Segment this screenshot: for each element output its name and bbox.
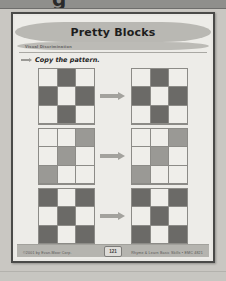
right-arrow-icon <box>100 152 126 161</box>
top-cut-band: g <box>0 0 226 9</box>
block-cell <box>151 69 169 87</box>
exercise-row <box>15 186 211 246</box>
block-cell <box>132 87 150 105</box>
block-cell <box>39 226 57 244</box>
block-cell <box>169 189 187 207</box>
copy-pattern-grid <box>131 68 188 125</box>
block-cell <box>76 226 94 244</box>
block-cell <box>39 147 57 165</box>
block-cell <box>169 147 187 165</box>
block-cell <box>132 207 150 225</box>
block-cell <box>132 189 150 207</box>
block-cell <box>76 87 94 105</box>
skill-subtitle: Visual Discrimination <box>25 42 72 50</box>
model-pattern-grid <box>38 188 95 245</box>
page-title: Pretty Blocks <box>15 22 211 42</box>
footer-attribution: Rhyme & Learn Basic Skills • EMC 4821 <box>131 251 203 255</box>
scan-bottom-edge <box>0 271 226 281</box>
block-cell <box>76 106 94 124</box>
block-cell <box>58 166 76 184</box>
right-arrow-icon <box>100 92 126 101</box>
block-cell <box>151 189 169 207</box>
block-cell <box>151 207 169 225</box>
block-cell <box>132 226 150 244</box>
block-cell <box>169 226 187 244</box>
block-cell <box>76 129 94 147</box>
block-cell <box>39 87 57 105</box>
exercise-row <box>15 66 211 126</box>
block-cell <box>58 207 76 225</box>
exercise-row <box>15 126 211 186</box>
worksheet-sheet: Pretty Blocks Visual Discrimination Copy… <box>11 12 215 263</box>
block-cell <box>132 129 150 147</box>
model-pattern-grid <box>38 68 95 125</box>
model-pattern-grid <box>38 128 95 185</box>
block-cell <box>169 207 187 225</box>
block-cell <box>151 147 169 165</box>
block-cell <box>151 87 169 105</box>
block-cell <box>132 69 150 87</box>
block-cell <box>39 106 57 124</box>
block-cell <box>76 207 94 225</box>
page-number-badge: 121 <box>104 246 122 257</box>
block-cell <box>58 147 76 165</box>
footer-copyright: ©2001 by Evan-Moor Corp. <box>23 251 72 255</box>
block-cell <box>39 129 57 147</box>
copy-pattern-grid <box>131 128 188 185</box>
block-cell <box>169 166 187 184</box>
block-cell <box>132 147 150 165</box>
band-rule <box>0 8 226 9</box>
block-cell <box>39 207 57 225</box>
exercise-list <box>15 66 211 246</box>
block-cell <box>58 189 76 207</box>
block-cell <box>58 106 76 124</box>
block-cell <box>76 69 94 87</box>
block-cell <box>132 106 150 124</box>
header-divider <box>19 52 207 53</box>
block-cell <box>39 166 57 184</box>
block-cell <box>151 106 169 124</box>
block-cell <box>169 69 187 87</box>
block-cell <box>58 226 76 244</box>
block-cell <box>76 189 94 207</box>
block-cell <box>39 189 57 207</box>
block-cell <box>151 226 169 244</box>
block-cell <box>151 129 169 147</box>
right-arrow-icon <box>100 212 126 221</box>
block-cell <box>58 129 76 147</box>
instruction-row: Copy the pattern. <box>21 55 207 65</box>
copy-pattern-grid <box>131 188 188 245</box>
block-cell <box>169 106 187 124</box>
block-cell <box>169 129 187 147</box>
worksheet-page: Pretty Blocks Visual Discrimination Copy… <box>15 16 211 259</box>
block-cell <box>76 166 94 184</box>
block-cell <box>151 166 169 184</box>
block-cell <box>76 147 94 165</box>
scanned-page-canvas: g Pretty Blocks Visual Discrimination Co… <box>0 0 226 281</box>
block-cell <box>58 69 76 87</box>
block-cell <box>39 69 57 87</box>
instruction-text: Copy the pattern. <box>35 56 100 64</box>
block-cell <box>169 87 187 105</box>
block-cell <box>132 166 150 184</box>
block-cell <box>58 87 76 105</box>
right-arrow-icon <box>21 58 32 63</box>
